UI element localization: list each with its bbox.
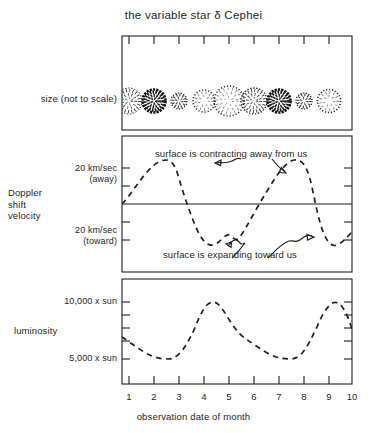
star-disc bbox=[193, 90, 215, 112]
panel-luminosity-bottom-ticks bbox=[129, 376, 329, 384]
diagram-canvas bbox=[0, 0, 387, 433]
star-disc bbox=[214, 86, 244, 116]
panel-luminosity-right-ticks bbox=[344, 302, 352, 359]
panel-luminosity bbox=[122, 279, 352, 384]
star-disc-row bbox=[116, 86, 341, 116]
panel-size-top-ticks bbox=[129, 36, 329, 44]
annotation-leader-contracting-left bbox=[215, 158, 241, 165]
panel-doppler bbox=[122, 136, 352, 272]
figure-variable-star-delta-cephei: the variable star δ Cephei size (not to … bbox=[0, 0, 387, 433]
star-disc bbox=[296, 93, 312, 109]
star-disc bbox=[171, 93, 187, 109]
star-disc bbox=[318, 90, 341, 113]
star-disc bbox=[241, 88, 267, 114]
panel-size bbox=[116, 36, 352, 130]
star-disc bbox=[143, 90, 166, 113]
doppler-velocity-curve bbox=[122, 160, 352, 246]
star-disc bbox=[268, 90, 291, 113]
annotation-leader-expanding-left bbox=[226, 240, 245, 258]
annotation-leader-expanding-right bbox=[268, 235, 314, 259]
star-disc bbox=[116, 88, 142, 114]
panel-luminosity-left-ticks bbox=[122, 302, 130, 359]
luminosity-curve bbox=[122, 302, 352, 359]
